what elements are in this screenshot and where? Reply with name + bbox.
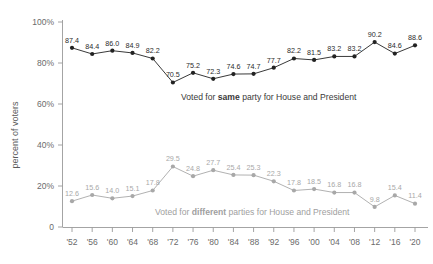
data-point-label: 15.1 xyxy=(126,184,140,193)
annotation-prefix: Voted for xyxy=(181,92,218,102)
data-point-marker xyxy=(231,72,235,76)
data-point-marker xyxy=(151,188,155,192)
data-point-label: 84.6 xyxy=(388,41,402,50)
x-tick-label: '04 xyxy=(329,237,340,247)
data-point-marker xyxy=(90,52,94,56)
chart-svg: percent of voters 020%40%60%80%100% '52'… xyxy=(0,0,433,264)
data-point-label: 90.2 xyxy=(368,30,382,39)
data-point-marker xyxy=(393,51,397,55)
x-tick-label: '92 xyxy=(268,237,279,247)
data-point-label: 14.0 xyxy=(105,186,119,195)
data-point-marker xyxy=(191,71,195,75)
data-point-label: 75.2 xyxy=(186,61,200,70)
y-tick-label: 80% xyxy=(37,58,54,68)
data-point-label: 72.3 xyxy=(206,67,220,76)
data-point-marker xyxy=(312,58,316,62)
data-point-label: 12.6 xyxy=(65,189,79,198)
data-point-label: 84.9 xyxy=(126,41,140,50)
data-point-label: 17.8 xyxy=(146,178,160,187)
data-point-label: 88.6 xyxy=(408,33,422,42)
data-point-label: 24.8 xyxy=(186,164,200,173)
data-point-label: 83.2 xyxy=(327,44,341,53)
data-point-label: 29.5 xyxy=(166,154,180,163)
data-point-marker xyxy=(90,193,94,197)
data-point-marker xyxy=(171,164,175,168)
y-tick-label: 0 xyxy=(49,222,54,232)
data-point-label: 82.2 xyxy=(287,46,301,55)
same-party-annotation: Voted for same party for House and Presi… xyxy=(181,92,357,102)
data-point-marker xyxy=(130,51,134,55)
data-point-marker xyxy=(373,40,377,44)
data-point-marker xyxy=(70,199,74,203)
x-tick-label: '84 xyxy=(228,237,239,247)
data-point-label: 83.2 xyxy=(347,44,361,53)
data-point-marker xyxy=(393,193,397,197)
y-axis-title: percent of voters xyxy=(10,101,20,169)
data-point-label: 11.4 xyxy=(408,191,421,200)
data-point-marker xyxy=(171,80,175,84)
data-point-marker xyxy=(272,179,276,183)
data-point-marker xyxy=(211,77,215,81)
data-point-marker xyxy=(130,194,134,198)
data-point-label: 86.0 xyxy=(105,39,119,48)
x-tick-label: '52 xyxy=(66,237,77,247)
data-point-marker xyxy=(110,49,114,53)
data-point-label: 15.4 xyxy=(388,183,402,192)
data-point-marker xyxy=(151,56,155,60)
y-tick-label: 100% xyxy=(32,17,54,27)
data-point-label: 87.4 xyxy=(65,36,79,45)
data-point-marker xyxy=(292,56,296,60)
data-point-label: 84.4 xyxy=(85,42,99,51)
annotation-keyword: same xyxy=(218,92,240,102)
data-point-label: 25.4 xyxy=(226,163,240,172)
annotation-keyword: different xyxy=(192,207,227,217)
data-point-label: 17.8 xyxy=(287,178,301,187)
data-point-label: 82.2 xyxy=(146,46,160,55)
x-tick-label: '00 xyxy=(309,237,320,247)
x-tick-label: '16 xyxy=(389,237,400,247)
data-point-label: 18.5 xyxy=(307,177,321,186)
y-tick-label: 20% xyxy=(37,181,54,191)
y-tick-label: 40% xyxy=(37,140,54,150)
series-line xyxy=(72,42,415,82)
data-point-marker xyxy=(332,190,336,194)
x-tick-label: '80 xyxy=(208,237,219,247)
data-point-label: 74.6 xyxy=(226,62,240,71)
data-point-marker xyxy=(312,187,316,191)
data-point-marker xyxy=(413,202,417,206)
voter-split-ticket-line-chart: percent of voters 020%40%60%80%100% '52'… xyxy=(0,0,433,264)
data-point-marker xyxy=(373,205,377,209)
data-point-marker xyxy=(272,66,276,70)
data-point-marker xyxy=(251,173,255,177)
data-point-label: 15.6 xyxy=(85,183,99,192)
data-point-label: 81.5 xyxy=(307,48,321,57)
annotation-prefix: Voted for xyxy=(155,207,192,217)
data-point-label: 70.5 xyxy=(166,70,180,79)
y-tick-label: 60% xyxy=(37,99,54,109)
data-point-label: 22.3 xyxy=(267,169,281,178)
x-tick-label: '12 xyxy=(369,237,380,247)
data-point-marker xyxy=(70,46,74,50)
x-tick-label: '88 xyxy=(248,237,259,247)
x-tick-label: '76 xyxy=(188,237,199,247)
annotation-suffix: parties for House and President xyxy=(226,207,350,217)
x-tick-label: '96 xyxy=(288,237,299,247)
data-point-marker xyxy=(332,54,336,58)
data-point-label: 27.7 xyxy=(206,158,220,167)
data-point-label: 77.7 xyxy=(267,56,281,65)
different-parties-annotation: Voted for different parties for House an… xyxy=(155,207,350,217)
data-point-marker xyxy=(292,188,296,192)
data-point-marker xyxy=(191,174,195,178)
data-point-label: 9.8 xyxy=(370,195,380,204)
data-point-label: 16.8 xyxy=(327,180,341,189)
data-point-marker xyxy=(352,190,356,194)
data-point-marker xyxy=(211,168,215,172)
data-point-label: 25.3 xyxy=(247,163,261,172)
data-point-label: 16.8 xyxy=(347,180,361,189)
x-tick-label: '72 xyxy=(167,237,178,247)
series-markers xyxy=(70,40,417,209)
series-line xyxy=(72,167,415,207)
x-tick-label: '56 xyxy=(87,237,98,247)
data-point-marker xyxy=(352,54,356,58)
data-point-marker xyxy=(110,196,114,200)
